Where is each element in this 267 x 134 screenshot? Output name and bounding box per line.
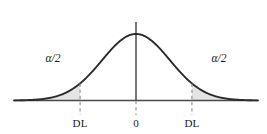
chart-background: [0, 0, 267, 134]
tick-label-left-dl: DL: [73, 117, 88, 129]
normal-distribution-figure: α/2 α/2 DL 0 DL: [0, 0, 267, 134]
alpha-over-two-label-left: α/2: [45, 52, 60, 64]
tick-label-right-dl: DL: [184, 117, 199, 129]
distribution-chart-svg: α/2 α/2 DL 0 DL: [0, 0, 267, 134]
alpha-over-two-label-right: α/2: [212, 52, 227, 64]
tick-label-center-zero: 0: [133, 117, 139, 129]
